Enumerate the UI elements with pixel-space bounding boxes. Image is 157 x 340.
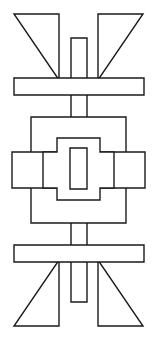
- lower-horizontal-bar: [14, 245, 144, 262]
- figure-canvas: [0, 0, 157, 340]
- line-drawing-svg: [0, 0, 157, 340]
- center-inner-rect: [70, 148, 87, 189]
- upper-horizontal-bar: [14, 78, 144, 95]
